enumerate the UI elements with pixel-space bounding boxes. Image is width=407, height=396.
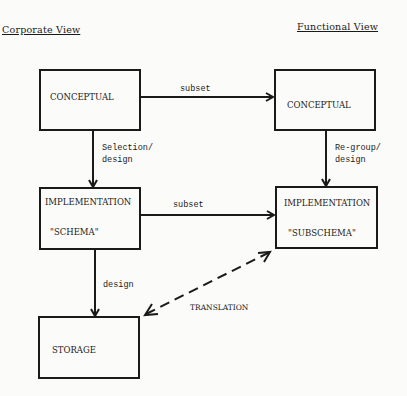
box-schema-line2: "SCHEMA" <box>50 227 99 237</box>
box-corporate-conceptual-label: CONCEPTUAL <box>50 92 114 102</box>
box-schema-line1: IMPLEMENTATION <box>45 197 131 207</box>
label-regroup: Re-group/ <box>335 142 381 154</box>
data-views-diagram: Corporate View Functional View CONCEPTUA… <box>0 0 407 396</box>
translation-head-lower <box>145 304 158 315</box>
label-selection-design: design <box>102 154 133 166</box>
translation-head-upper <box>258 252 270 262</box>
label-middle-subset: subset <box>173 199 204 211</box>
heading-corporate-view: Corporate View <box>2 24 80 35</box>
label-regroup-design: design <box>335 154 366 166</box>
box-storage-label: STORAGE <box>52 345 96 355</box>
box-implementation-subschema <box>275 186 378 249</box>
box-subschema-line2: "SUBSCHEMA" <box>288 228 356 238</box>
label-translation: TRANSLATION <box>190 302 248 314</box>
label-selection: Selection/ <box>102 142 153 154</box>
heading-functional-view: Functional View <box>297 21 378 32</box>
box-subschema-line1: IMPLEMENTATION <box>284 198 370 208</box>
label-storage-design: design <box>103 279 134 291</box>
box-functional-conceptual-label: CONCEPTUAL <box>287 100 351 110</box>
label-top-subset: subset <box>180 83 211 95</box>
